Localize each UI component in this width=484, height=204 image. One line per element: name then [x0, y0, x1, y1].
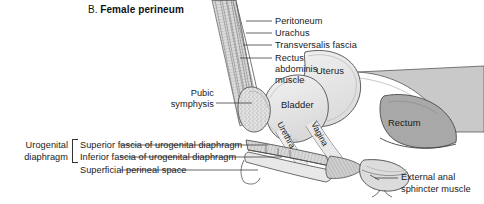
- label-urogenital-diaphragm-line1: Urogenital: [6, 140, 68, 151]
- label-inferior-fascia: Inferior fascia of urogenital diaphragm: [80, 152, 236, 163]
- label-urachus: Urachus: [275, 28, 310, 39]
- label-bladder: Bladder: [281, 100, 314, 111]
- urogenital-bracket: [72, 139, 78, 163]
- label-pubic-symphysis-line2: symphysis: [146, 99, 214, 110]
- label-urogenital-diaphragm-line2: diaphragm: [6, 152, 68, 163]
- label-rectus-abdominis-line1: Rectus: [275, 53, 304, 64]
- label-external-anal-sphincter-line1: External anal: [401, 172, 455, 183]
- label-transversalis-fascia: Transversalis fascia: [275, 40, 357, 51]
- label-rectum: Rectum: [388, 118, 421, 129]
- anatomical-figure-female-perineum: B. Female perineum Peritoneum Urachus Tr…: [0, 0, 484, 204]
- label-rectus-abdominis-line3: muscle: [275, 75, 304, 86]
- label-superior-fascia: Superior fascia of urogenital diaphragm: [80, 140, 242, 151]
- panel-title: B. Female perineum: [88, 4, 184, 15]
- label-rectus-abdominis-line2: abdominis: [275, 64, 317, 75]
- perineal-body-group: [326, 156, 364, 179]
- label-superficial-perineal-space: Superficial perineal space: [80, 165, 187, 176]
- pubic-symphysis-group: [238, 87, 270, 132]
- panel-title-text: Female perineum: [100, 4, 184, 15]
- label-peritoneum: Peritoneum: [275, 16, 322, 27]
- label-pubic-symphysis-line1: Pubic: [156, 88, 214, 99]
- label-external-anal-sphincter-line2: sphincter muscle: [401, 184, 471, 195]
- panel-letter: B.: [88, 4, 97, 15]
- label-uterus: Uterus: [316, 66, 344, 77]
